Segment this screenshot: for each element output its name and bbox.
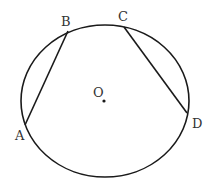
- point-label-a: A: [14, 128, 25, 143]
- chord-ab: [25, 31, 68, 125]
- point-label-c: C: [118, 9, 128, 24]
- point-label-b: B: [61, 14, 71, 29]
- geometry-diagram: A B C D O: [0, 0, 210, 187]
- center-label-o: O: [93, 85, 104, 100]
- point-label-d: D: [192, 116, 202, 131]
- diagram-svg: A B C D O: [0, 0, 210, 187]
